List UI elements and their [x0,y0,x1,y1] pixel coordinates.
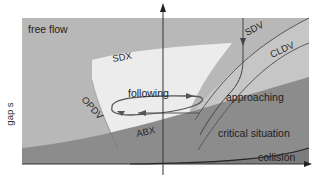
y-axis-arrow-icon [160,3,166,12]
label-following: following [128,87,169,99]
label-collision: collision [258,151,296,163]
label-free-flow: free flow [28,23,68,35]
label-critical-situation: critical situation [218,127,290,139]
label-approaching: approaching [226,91,284,103]
y-axis-label: gap s [4,102,15,125]
car-following-diagram: free flow following approaching critical… [0,0,315,183]
